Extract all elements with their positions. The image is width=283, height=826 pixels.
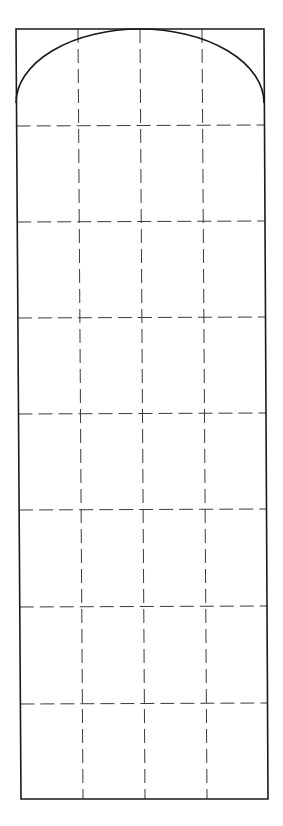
horizontal-dashed-line-7 [20, 703, 267, 704]
horizontal-dashed-line-3 [18, 317, 266, 318]
arched-grid-diagram [0, 0, 283, 826]
dashed-grid [17, 29, 268, 799]
horizontal-dashed-line-5 [19, 509, 266, 510]
horizontal-dashed-line-2 [17, 221, 265, 222]
horizontal-dashed-line-4 [19, 413, 267, 414]
vertical-dashed-line-3 [202, 29, 207, 799]
diagram-canvas [0, 0, 283, 826]
horizontal-dashed-line-6 [20, 606, 267, 607]
horizontal-dashed-line-1 [17, 125, 265, 126]
